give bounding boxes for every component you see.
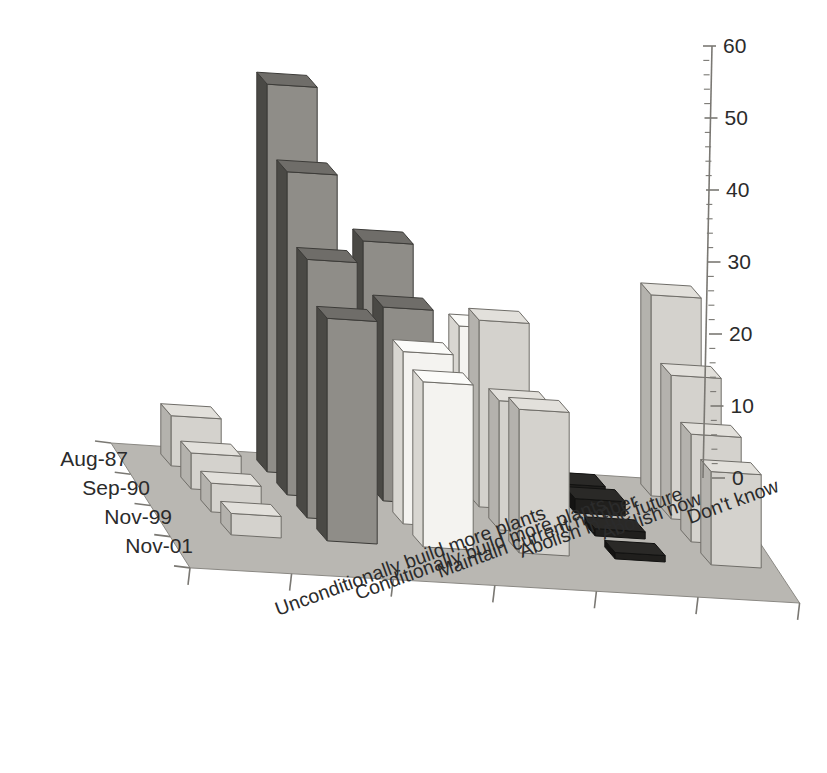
bar-side-face <box>317 306 327 541</box>
bar <box>317 306 377 544</box>
value-tick-label: 40 <box>726 178 749 201</box>
value-tick-label: 20 <box>729 322 752 345</box>
category-tick <box>493 585 495 602</box>
bar-front-face <box>423 382 473 550</box>
value-tick-label: 30 <box>728 250 751 273</box>
category-tick <box>188 568 190 585</box>
bar-side-face <box>413 370 423 547</box>
series-tick <box>115 472 131 474</box>
value-tick-label: 50 <box>725 106 748 129</box>
category-tick <box>798 603 800 620</box>
bar-side-face <box>257 72 267 472</box>
bar <box>221 501 281 538</box>
series-label-aug-87: Aug-87 <box>60 447 128 470</box>
bar-side-face <box>297 248 307 518</box>
category-tick <box>290 574 292 591</box>
series-label-nov-01: Nov-01 <box>125 534 193 557</box>
series-label-sep-90: Sep-90 <box>82 476 150 499</box>
series-tick <box>174 566 190 568</box>
category-tick <box>696 597 698 614</box>
category-tick <box>594 591 596 608</box>
value-tick-label: 10 <box>731 394 754 417</box>
series-tick <box>95 441 111 443</box>
bar-side-face <box>277 160 287 495</box>
bar-front-face <box>327 318 377 544</box>
bar-front-face <box>231 513 281 538</box>
value-tick-label: 60 <box>723 34 746 57</box>
chart-root: 0102030405060Aug-87Sep-90Nov-99Nov-01Unc… <box>0 0 827 773</box>
bar <box>413 370 473 550</box>
series-label-nov-99: Nov-99 <box>104 505 172 528</box>
three-d-bar-chart: 0102030405060Aug-87Sep-90Nov-99Nov-01Unc… <box>0 0 827 773</box>
bar-side-face <box>393 340 403 524</box>
bar-side-face <box>641 283 651 496</box>
bar-side-face <box>489 389 499 530</box>
